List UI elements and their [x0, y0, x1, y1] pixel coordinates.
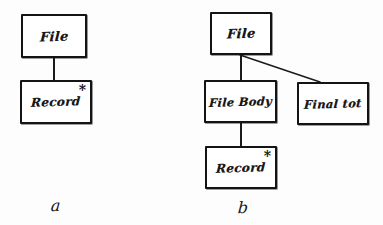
edge-a-file-to-record — [53, 56, 55, 80]
figure-a-caption: a — [50, 196, 61, 215]
node-a-file-label: File — [39, 28, 68, 44]
node-b-finaltot-label: Final tot — [304, 96, 363, 112]
node-a-file[interactable]: File — [21, 14, 87, 58]
figure-b-caption: b — [237, 198, 249, 217]
node-a-record-label: Record — [31, 94, 81, 109]
edge-b-file-to-filebody — [240, 54, 242, 80]
node-b-finaltot[interactable]: Final tot — [297, 82, 369, 125]
node-b-record[interactable]: Record * — [205, 146, 277, 189]
node-b-record-label: Record — [216, 160, 266, 175]
node-a-record[interactable]: Record * — [20, 80, 92, 124]
diagram-canvas: File Record * a File File Body Final tot… — [0, 0, 383, 225]
node-b-file-label: File — [226, 26, 255, 42]
node-b-file[interactable]: File — [210, 12, 272, 55]
node-b-filebody-label: File Body — [209, 94, 273, 110]
iteration-star-icon-b-record: * — [264, 149, 271, 163]
edge-b-filebody-to-record — [240, 122, 242, 146]
iteration-star-icon-a-record: * — [79, 83, 86, 97]
node-b-filebody[interactable]: File Body — [204, 80, 277, 123]
